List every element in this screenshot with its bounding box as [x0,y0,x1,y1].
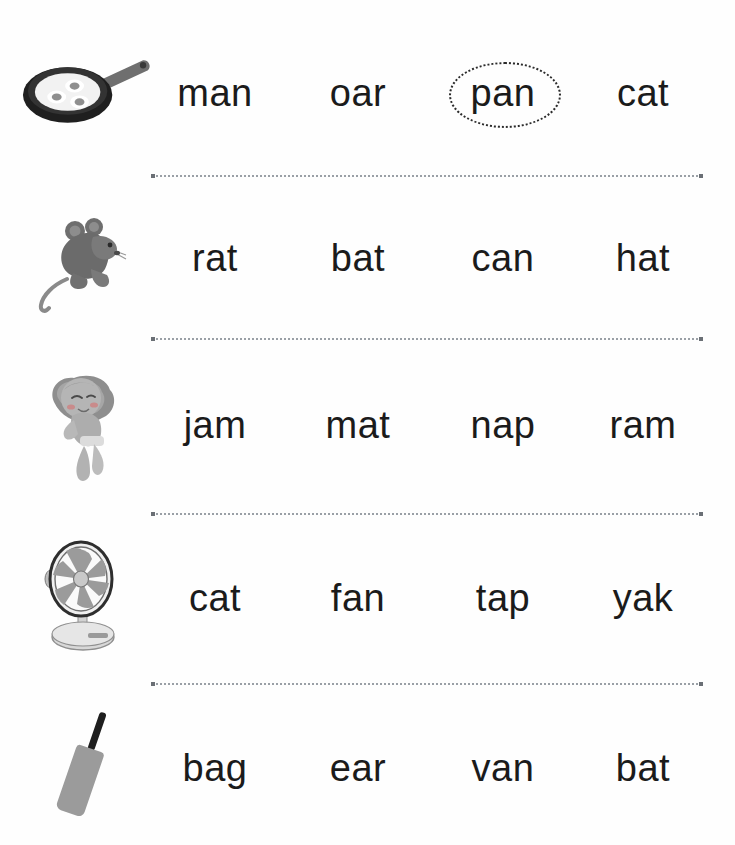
cricket-bat-image [18,705,153,830]
word-text: bag [183,749,248,787]
word-option[interactable]: ear [298,705,418,830]
separator-end-cap [151,682,155,686]
worksheet-row: man oar pan cat [0,30,735,190]
separator-end-cap [151,512,155,516]
separator-end-cap [699,337,703,341]
worksheet-row: cat fan tap yak [0,535,735,695]
word-option[interactable]: ram [583,362,703,487]
word-text: cat [617,74,669,112]
word-option[interactable]: man [155,30,275,155]
word-option[interactable]: fan [298,535,418,660]
row-separator [153,513,701,517]
word-text: bat [331,239,385,277]
separator-end-cap [699,512,703,516]
word-text: can [472,239,535,277]
table-fan-icon [36,539,136,657]
word-text: ram [610,406,677,444]
word-text: pan [471,74,536,112]
word-text: van [472,749,535,787]
worksheet-page: man oar pan cat [0,0,735,845]
word-text: man [177,74,252,112]
word-choice-group: bag ear van bat [155,705,715,830]
word-option[interactable]: cat [155,535,275,660]
rat-image [18,195,153,320]
word-choice-group: rat bat can hat [155,195,715,320]
word-option[interactable]: cat [583,30,703,155]
frying-pan-with-eggs-image [18,30,153,155]
word-choice-group: jam mat nap ram [155,362,715,487]
word-option[interactable]: jam [155,362,275,487]
word-text: ear [330,749,386,787]
worksheet-row: bag ear van bat [0,705,735,845]
word-choice-group: man oar pan cat [155,30,715,155]
word-option[interactable]: oar [298,30,418,155]
word-text: hat [616,239,670,277]
word-option[interactable]: bag [155,705,275,830]
word-option[interactable]: nap [443,362,563,487]
cricket-bat-icon [31,704,141,832]
table-fan-image [18,535,153,660]
separator-end-cap [151,337,155,341]
separator-end-cap [151,174,155,178]
word-text: oar [330,74,386,112]
word-text: jam [184,406,247,444]
word-option[interactable]: yak [583,535,703,660]
word-option[interactable]: rat [155,195,275,320]
word-text: yak [613,579,674,617]
word-text: rat [192,239,238,277]
separator-end-cap [699,174,703,178]
word-text: mat [326,406,391,444]
word-choice-group: cat fan tap yak [155,535,715,660]
word-option[interactable]: mat [298,362,418,487]
row-separator [153,175,701,179]
word-option[interactable]: tap [443,535,563,660]
row-separator [153,683,701,687]
worksheet-row: jam mat nap ram [0,362,735,522]
word-option[interactable]: van [443,705,563,830]
sleeping-baby-icon [34,364,138,486]
word-text: cat [189,579,241,617]
worksheet-row: rat bat can hat [0,195,735,355]
word-option-selected[interactable]: pan [443,30,563,155]
row-separator [153,338,701,342]
word-option[interactable]: can [443,195,563,320]
word-text: tap [476,579,530,617]
sleeping-baby-nap-image [18,362,153,487]
word-option[interactable]: bat [298,195,418,320]
frying-pan-icon [18,50,153,136]
rat-icon [31,203,141,313]
word-option[interactable]: hat [583,195,703,320]
word-option[interactable]: bat [583,705,703,830]
word-text: fan [331,579,385,617]
separator-end-cap [699,682,703,686]
word-text: bat [616,749,670,787]
word-text: nap [471,406,536,444]
